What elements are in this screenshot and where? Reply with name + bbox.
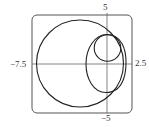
y-max-label: 5 [103, 3, 108, 12]
y-min-label: −5 [101, 114, 111, 123]
x-max-label: 2.5 [135, 59, 146, 68]
small-circle-curve [94, 35, 121, 62]
x-min-label: −7.5 [10, 60, 26, 69]
polar-plot-figure: 5 −7.5 2.5 −5 [0, 0, 149, 127]
large-circle-curve [37, 20, 124, 107]
